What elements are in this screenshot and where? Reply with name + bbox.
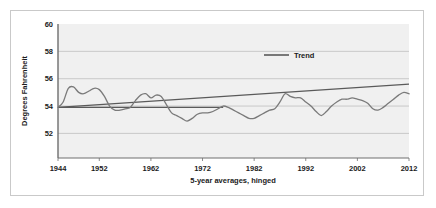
y-tick-label: 56 (45, 74, 53, 83)
x-tick-label: 1982 (246, 164, 263, 173)
x-tick-label: 2012 (401, 164, 418, 173)
x-tick-label: 1944 (50, 164, 68, 173)
x-tick-label: 1952 (91, 164, 108, 173)
y-tick-label: 52 (45, 129, 53, 138)
x-tick-label: 2002 (349, 164, 366, 173)
y-tick-label: 58 (45, 47, 53, 56)
legend-label-trend: Trend (294, 51, 315, 60)
x-tick-label: 1972 (194, 164, 211, 173)
y-axis-title: Degrees Fahrenheit (20, 55, 29, 126)
y-axis-tick-labels: 5254565860 (45, 20, 54, 138)
y-tick-label: 54 (45, 102, 54, 111)
chart-figure: 5254565860 19441952196219721982199220022… (0, 0, 436, 208)
x-axis-title: 5-year averages, hinged (190, 176, 276, 185)
plot-area-background (58, 24, 409, 158)
x-tick-label: 1962 (143, 164, 160, 173)
temperature-line-chart: 5254565860 19441952196219721982199220022… (11, 11, 425, 197)
x-axis-tick-labels: 19441952196219721982199220022012 (50, 164, 418, 173)
chart-frame: 5254565860 19441952196219721982199220022… (10, 10, 424, 196)
y-tick-label: 60 (45, 20, 53, 29)
x-tick-label: 1992 (297, 164, 314, 173)
